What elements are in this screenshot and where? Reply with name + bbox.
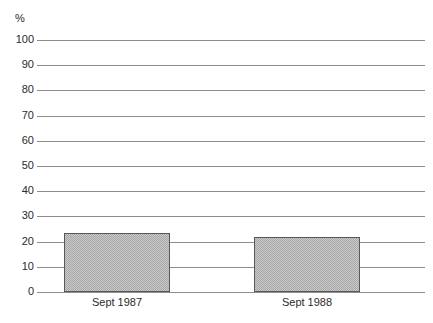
plot-area: 100 90 80 70 60 50 4 bbox=[43, 40, 425, 292]
y-axis-unit-label: % bbox=[15, 13, 25, 24]
gridline bbox=[43, 216, 425, 217]
y-tick-label: 0 bbox=[28, 285, 34, 298]
gridline bbox=[43, 65, 425, 66]
y-tick-label: 90 bbox=[22, 58, 34, 71]
bar-chart-figure: % 100 90 80 70 60 50 bbox=[0, 0, 433, 323]
gridline bbox=[43, 116, 425, 117]
axis-baseline bbox=[43, 292, 425, 293]
gridline bbox=[43, 40, 425, 41]
x-axis-category-label: Sept 1988 bbox=[254, 296, 360, 309]
y-tick-label: 30 bbox=[22, 209, 34, 222]
x-axis-category-label: Sept 1987 bbox=[64, 296, 170, 309]
y-tick-label: 100 bbox=[16, 33, 34, 46]
y-tick-label: 20 bbox=[22, 235, 34, 248]
gridline bbox=[43, 141, 425, 142]
y-tick-label: 60 bbox=[22, 134, 34, 147]
y-tick-label: 10 bbox=[22, 260, 34, 273]
gridline bbox=[43, 90, 425, 91]
y-tick-label: 50 bbox=[22, 159, 34, 172]
gridline bbox=[43, 191, 425, 192]
gridline bbox=[43, 166, 425, 167]
bar-sept-1987[interactable] bbox=[64, 233, 170, 292]
y-tick-label: 70 bbox=[22, 109, 34, 122]
y-tick-label: 80 bbox=[22, 83, 34, 96]
y-tick-label: 40 bbox=[22, 184, 34, 197]
bar-sept-1988[interactable] bbox=[254, 237, 360, 292]
